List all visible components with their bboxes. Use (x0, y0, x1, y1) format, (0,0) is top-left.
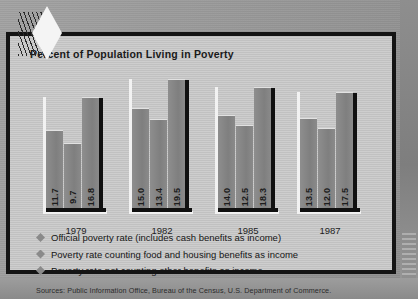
cluster-shadow-right (271, 88, 275, 212)
bar: 16.8 (82, 97, 99, 208)
source-note: Sources: Public Information Office, Bure… (36, 286, 331, 295)
bar-value-label: 12.0 (322, 188, 332, 207)
bar-value-label: 14.0 (222, 188, 232, 207)
slide-frame: Percent of Population Living in Poverty … (6, 32, 396, 274)
bar: 13.4 (150, 119, 167, 208)
legend-item-label: Poverty rate counting food and housing b… (51, 249, 298, 260)
legend-item-label: Official poverty rate (includes cash ben… (51, 232, 281, 243)
bar-value-label: 18.3 (258, 188, 268, 207)
page-title: Percent of Population Living in Poverty (30, 48, 234, 60)
bar-cluster: 13.512.017.5 (300, 66, 356, 208)
diamond-bullet-icon (36, 250, 45, 259)
bar: 15.0 (132, 108, 149, 208)
bar-cluster: 11.79.716.8 (46, 66, 102, 208)
bar-chart: 11.79.716.8197915.013.419.5198214.012.51… (24, 66, 380, 214)
bar: 19.5 (168, 79, 185, 208)
bar: 13.5 (300, 118, 317, 208)
bar: 14.0 (218, 115, 235, 208)
bar-value-label: 9.7 (68, 190, 78, 203)
bar-value-label: 13.5 (304, 188, 314, 207)
bar-value-label: 19.5 (172, 188, 182, 207)
bar-value-label: 12.5 (240, 188, 250, 207)
legend-item: Official poverty rate (includes cash ben… (36, 232, 386, 243)
bar-cluster: 15.013.419.5 (132, 66, 188, 208)
bar-cluster: 14.012.518.3 (218, 66, 274, 208)
bar: 18.3 (254, 87, 271, 208)
cluster-shadow-bottom (300, 208, 360, 212)
cluster-shadow-bottom (46, 208, 106, 212)
bar-group: 11.79.716.81979 (46, 66, 108, 214)
bar-group: 14.012.518.31985 (218, 66, 280, 214)
photo-right-edge (400, 0, 418, 299)
bar-value-label: 11.7 (50, 188, 60, 206)
bar: 17.5 (336, 92, 353, 208)
bar-value-label: 16.8 (86, 188, 96, 207)
bar-group: 13.512.017.51987 (300, 66, 362, 214)
legend-item-label: Poverty rate not counting other benefits… (51, 265, 263, 276)
cluster-shadow-bottom (218, 208, 278, 212)
chart-legend: Official poverty rate (includes cash ben… (36, 232, 386, 282)
legend-item: Poverty rate not counting other benefits… (36, 265, 386, 276)
cluster-shadow-bottom (132, 208, 192, 212)
diamond-bullet-icon (36, 233, 45, 242)
bar: 11.7 (46, 130, 63, 208)
bar: 9.7 (64, 143, 81, 208)
legend-item: Poverty rate counting food and housing b… (36, 249, 386, 260)
bar-value-label: 13.4 (154, 188, 164, 207)
bar: 12.0 (318, 128, 335, 208)
cluster-shadow-right (99, 98, 103, 212)
cluster-shadow-right (185, 80, 189, 212)
bar: 12.5 (236, 125, 253, 208)
diamond-bullet-icon (36, 266, 45, 275)
cluster-shadow-right (353, 93, 357, 212)
bar-value-label: 15.0 (136, 188, 146, 207)
bar-value-label: 17.5 (340, 188, 350, 207)
bar-group: 15.013.419.51982 (132, 66, 194, 214)
